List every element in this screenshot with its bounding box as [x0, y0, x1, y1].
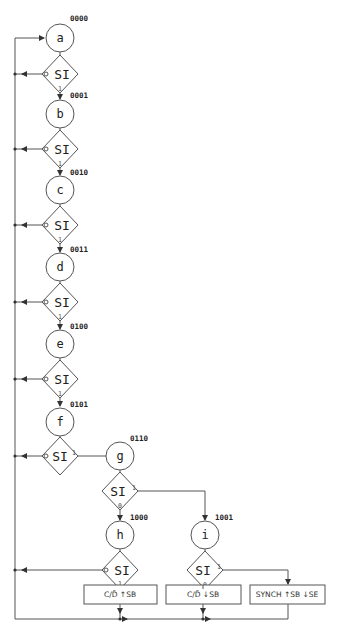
state-c: c 0010 — [46, 168, 89, 204]
svg-text:1000: 1000 — [130, 513, 149, 522]
state-a: a 0000 — [46, 14, 89, 52]
svg-text:0010: 0010 — [70, 168, 89, 177]
svg-text:C/D̄ ↓SB: C/D̄ ↓SB — [187, 590, 219, 599]
svg-text:SI: SI — [114, 563, 130, 578]
svg-text:0100: 0100 — [70, 322, 89, 331]
decision-e: SI 1 — [42, 360, 78, 398]
state-f: f 0101 — [46, 400, 89, 436]
decision-i: SI 1 0 — [187, 551, 223, 589]
svg-text:C/D̄ ↑SB: C/D̄ ↑SB — [104, 590, 136, 599]
svg-text:h: h — [116, 528, 123, 542]
chain-a-f: a 0000 SI 1 b 0001 SI 1 — [13, 14, 106, 475]
svg-text:0110: 0110 — [130, 434, 149, 443]
svg-text:c: c — [56, 183, 63, 197]
svg-text:g: g — [116, 449, 123, 463]
state-d: d 0011 — [46, 245, 89, 281]
output-box-1: C/D̄ ↑SB — [84, 585, 157, 604]
svg-text:1: 1 — [58, 390, 62, 398]
decision-f: SI 1 — [42, 437, 78, 475]
state-h: h 1000 — [106, 513, 149, 549]
decision-h: SI 1 — [102, 551, 138, 589]
svg-text:a: a — [56, 31, 63, 45]
svg-text:d: d — [56, 260, 63, 274]
svg-text:b: b — [56, 107, 63, 121]
svg-text:0001: 0001 — [70, 91, 89, 100]
bottom-bus — [15, 604, 288, 621]
svg-text:SI: SI — [54, 218, 70, 233]
svg-text:i: i — [201, 528, 208, 542]
svg-text:0: 0 — [118, 502, 122, 510]
svg-text:1: 1 — [58, 236, 62, 244]
svg-text:SI: SI — [110, 484, 126, 499]
svg-text:SI: SI — [52, 449, 68, 464]
decision-c: SI 1 — [42, 206, 78, 244]
state-g: g 0110 — [106, 434, 149, 470]
svg-text:f: f — [56, 415, 63, 429]
svg-text:0000: 0000 — [70, 14, 89, 23]
svg-text:1: 1 — [217, 563, 221, 571]
svg-text:1: 1 — [58, 313, 62, 321]
svg-text:SI: SI — [54, 372, 70, 387]
decision-b: SI 1 — [42, 130, 78, 168]
svg-text:SI: SI — [54, 295, 70, 310]
svg-text:1: 1 — [72, 449, 76, 457]
svg-text:0011: 0011 — [70, 245, 89, 254]
svg-text:1: 1 — [58, 160, 62, 168]
svg-text:1: 1 — [58, 85, 62, 93]
svg-text:1001: 1001 — [215, 513, 234, 522]
decision-a: SI 1 — [42, 55, 78, 93]
svg-text:0101: 0101 — [70, 400, 89, 409]
state-e: e 0100 — [46, 322, 89, 358]
svg-text:1: 1 — [132, 484, 136, 492]
return-bus — [15, 38, 44, 619]
svg-text:SI: SI — [54, 142, 70, 157]
state-diagram: a 0000 SI 1 b 0001 SI 1 — [0, 0, 337, 633]
decision-g: SI 1 0 — [102, 472, 138, 510]
output-box-3: SYNCH ↑SB ↓SE — [250, 585, 325, 604]
state-b: b 0001 — [46, 91, 89, 128]
svg-text:e: e — [56, 337, 63, 351]
svg-text:SYNCH ↑SB ↓SE: SYNCH ↑SB ↓SE — [256, 590, 319, 599]
svg-text:SI: SI — [195, 563, 211, 578]
decision-d: SI 1 — [42, 283, 78, 321]
state-i: i 1001 — [191, 513, 234, 549]
svg-text:SI: SI — [54, 67, 70, 82]
